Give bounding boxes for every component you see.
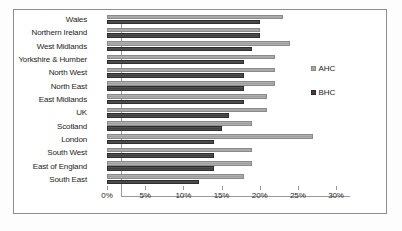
bar-ahc	[107, 41, 290, 46]
bar-ahc	[107, 174, 244, 179]
bar-row: South West	[14, 146, 386, 159]
bar-ahc	[107, 94, 267, 99]
bar-ahc	[107, 28, 260, 33]
x-axis-tick	[260, 186, 261, 190]
bar-ahc	[107, 81, 275, 86]
category-label: UK	[0, 108, 87, 117]
category-label: South West	[0, 148, 87, 157]
bar-bhc	[107, 126, 222, 131]
category-label: East Midlands	[0, 95, 87, 104]
bar-ahc	[107, 148, 252, 153]
legend-entry: AHC	[311, 64, 335, 73]
x-axis-tick-label: 0%	[92, 191, 122, 200]
bar-row: West Midlands	[14, 40, 386, 53]
x-axis-tick-label: 30%	[321, 191, 351, 200]
bar-bhc	[107, 86, 244, 91]
bar-ahc	[107, 161, 252, 166]
legend-label: BHC	[319, 88, 336, 97]
x-axis-tick-label: 5%	[130, 191, 160, 200]
bar-bhc	[107, 180, 199, 185]
category-label: East of England	[0, 162, 87, 171]
bar-bhc	[107, 33, 260, 38]
x-axis-tick	[336, 186, 337, 190]
bar-ahc	[107, 108, 267, 113]
bar-bhc	[107, 20, 260, 25]
x-axis-tick-label: 10%	[168, 191, 198, 200]
bar-row: East of England	[14, 159, 386, 172]
legend-label: AHC	[319, 64, 336, 73]
category-label: Yorkshire & Humber	[0, 55, 87, 64]
category-label: London	[0, 135, 87, 144]
bar-ahc	[107, 68, 275, 73]
legend-swatch-icon	[311, 66, 316, 71]
category-label: North East	[0, 82, 87, 91]
bar-bhc	[107, 153, 214, 158]
x-axis-tick-label: 20%	[245, 191, 275, 200]
chart-frame: 0%5%10%15%20%25%30% WalesNorthern Irelan…	[13, 9, 387, 214]
bar-bhc	[107, 60, 244, 65]
bar-row: London	[14, 133, 386, 146]
legend-entry: BHC	[311, 88, 335, 97]
bar-row: South East	[14, 173, 386, 186]
bar-row: Northern Ireland	[14, 26, 386, 39]
bar-bhc	[107, 47, 252, 52]
category-label: Wales	[0, 15, 87, 24]
bar-bhc	[107, 166, 214, 171]
bar-bhc	[107, 100, 244, 105]
x-axis-tick	[107, 186, 108, 190]
category-label: South East	[0, 175, 87, 184]
category-label: West Midlands	[0, 42, 87, 51]
x-axis-tick	[222, 186, 223, 190]
category-label: North West	[0, 68, 87, 77]
bar-bhc	[107, 113, 229, 118]
chart-legend: AHCBHC	[311, 64, 335, 112]
bar-bhc	[107, 140, 214, 145]
bar-bhc	[107, 73, 244, 78]
x-axis-tick	[145, 186, 146, 190]
bar-ahc	[107, 55, 275, 60]
x-axis-tick-label: 25%	[283, 191, 313, 200]
category-label: Northern Ireland	[0, 28, 87, 37]
chart-figure: 0%5%10%15%20%25%30% WalesNorthern Irelan…	[0, 0, 402, 231]
x-axis-tick-label: 15%	[207, 191, 237, 200]
bar-row: Scotland	[14, 119, 386, 132]
x-axis-tick	[183, 186, 184, 190]
x-axis-tick	[298, 186, 299, 190]
bar-ahc	[107, 121, 252, 126]
legend-swatch-icon	[311, 90, 316, 95]
bar-row: Wales	[14, 13, 386, 26]
bar-ahc	[107, 15, 283, 20]
category-label: Scotland	[0, 122, 87, 131]
bar-ahc	[107, 134, 313, 139]
